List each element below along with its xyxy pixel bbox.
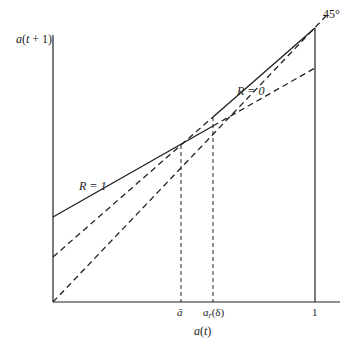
label-r0: R = 0 xyxy=(236,84,264,98)
x-axis-label: a(t) xyxy=(194,324,211,338)
tick-label-one: 1 xyxy=(312,306,318,318)
line-r0-dashed xyxy=(53,117,213,257)
tick-label-a-r-delta: ar(δ) xyxy=(203,306,224,320)
line-45-degree xyxy=(53,16,326,302)
line-r1-solid xyxy=(53,126,213,217)
label-45-degree: 45° xyxy=(323,7,340,21)
tick-label-a-hat: â xyxy=(177,306,183,318)
label-r1: R = 1 xyxy=(78,179,106,193)
diagram-canvas: a(t + 1) R = 1 R = 0 45° â ar(δ) 1 a(t) xyxy=(0,0,359,349)
line-r0-solid xyxy=(213,28,315,117)
y-axis-label: a(t + 1) xyxy=(16,32,52,46)
